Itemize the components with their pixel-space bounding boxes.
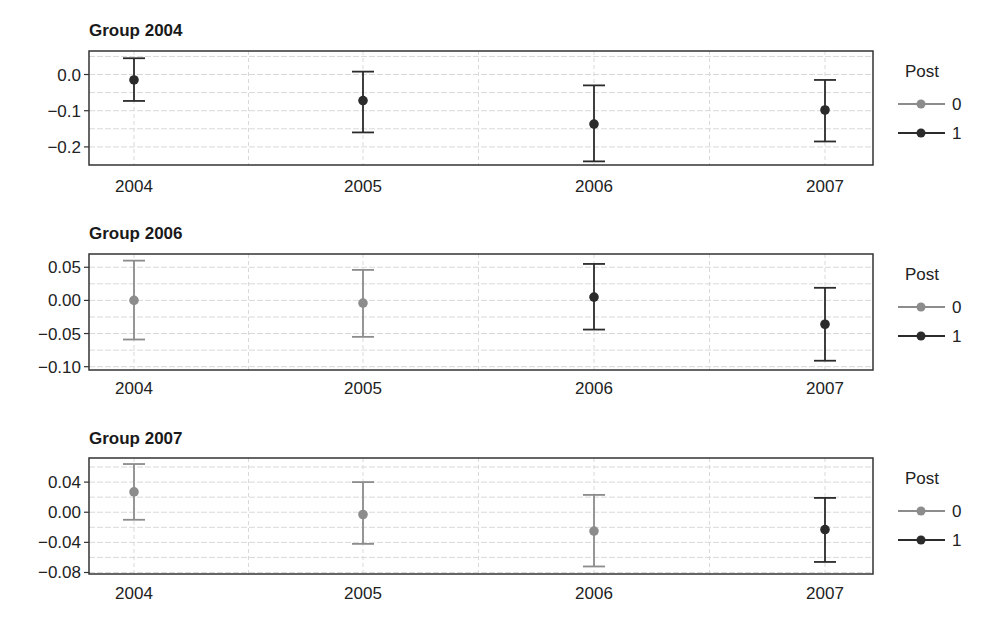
y-tick-label: −0.05 [38, 325, 81, 344]
x-tick-label: 2005 [344, 584, 382, 603]
legend: Post01 [898, 62, 961, 143]
y-tick-label: 0.0 [57, 66, 81, 85]
legend-label: 1 [952, 531, 961, 550]
legend-title: Post [905, 265, 939, 284]
panel-title: Group 2004 [89, 21, 183, 40]
x-tick-label: 2007 [806, 379, 844, 398]
point-estimate [820, 319, 830, 329]
legend-item-post-1: 1 [898, 531, 961, 550]
point-estimate [820, 105, 830, 115]
y-tick-label: 0.00 [48, 291, 81, 310]
y-tick-label: −0.04 [38, 533, 81, 552]
panel-group-2007: Group 20070.040.00−0.04−0.08200420052006… [38, 429, 961, 603]
x-tick-label: 2005 [344, 379, 382, 398]
point-estimate [358, 510, 368, 520]
x-tick-label: 2006 [575, 177, 613, 196]
x-tick-label: 2006 [575, 379, 613, 398]
event-study-chart: Group 20040.0−0.1−0.22004200520062007Pos… [0, 0, 987, 620]
point-estimate [589, 292, 599, 302]
point-estimate [129, 296, 139, 306]
y-tick-label: −0.2 [47, 138, 81, 157]
y-tick-label: −0.08 [38, 563, 81, 582]
panel-group-2004: Group 20040.0−0.1−0.22004200520062007Pos… [47, 21, 961, 196]
legend: Post01 [898, 469, 961, 550]
legend-label: 1 [952, 124, 961, 143]
panel-title: Group 2006 [89, 224, 183, 243]
point-estimate [358, 298, 368, 308]
legend-title: Post [905, 62, 939, 81]
point-estimate [589, 526, 599, 536]
panel-title: Group 2007 [89, 429, 183, 448]
x-tick-label: 2006 [575, 584, 613, 603]
point-estimate [129, 487, 139, 497]
x-tick-label: 2004 [115, 177, 153, 196]
legend-label: 1 [952, 327, 961, 346]
legend-item-post-0: 0 [898, 502, 961, 521]
legend-item-post-1: 1 [898, 124, 961, 143]
legend-label: 0 [952, 298, 961, 317]
legend-title: Post [905, 469, 939, 488]
y-tick-label: −0.1 [47, 102, 81, 121]
point-estimate [820, 525, 830, 535]
x-tick-label: 2005 [344, 177, 382, 196]
y-tick-label: 0.04 [48, 473, 81, 492]
legend-item-post-1: 1 [898, 327, 961, 346]
point-estimate [129, 75, 139, 85]
legend-item-post-0: 0 [898, 298, 961, 317]
y-tick-label: −0.10 [38, 358, 81, 377]
x-tick-label: 2007 [806, 584, 844, 603]
point-estimate [589, 119, 599, 129]
legend-label: 0 [952, 502, 961, 521]
x-tick-label: 2004 [115, 584, 153, 603]
point-estimate [358, 96, 368, 106]
panel-group-2006: Group 20060.050.00−0.05−0.10200420052006… [38, 224, 961, 398]
y-tick-label: 0.00 [48, 503, 81, 522]
x-tick-label: 2007 [806, 177, 844, 196]
x-tick-label: 2004 [115, 379, 153, 398]
y-tick-label: 0.05 [48, 258, 81, 277]
legend: Post01 [898, 265, 961, 346]
legend-item-post-0: 0 [898, 95, 961, 114]
legend-label: 0 [952, 95, 961, 114]
